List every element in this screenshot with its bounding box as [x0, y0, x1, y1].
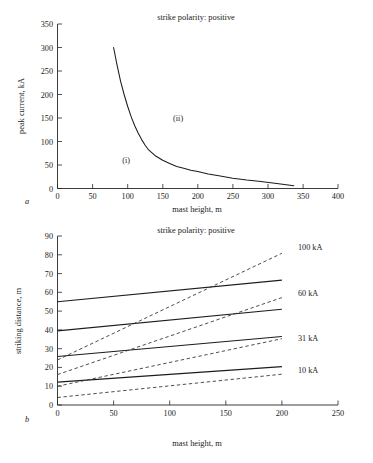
panel-b-letter: b	[25, 415, 29, 424]
panel-b-y-ticks	[58, 236, 63, 405]
x-tick-300: 300	[262, 192, 274, 201]
y-tick-90: 90	[45, 232, 53, 241]
panel-b-series-lines	[58, 253, 282, 397]
panel-b-xlabel: mast height, m	[172, 439, 222, 448]
y-tick-50: 50	[45, 161, 53, 170]
x-tick-100: 100	[122, 192, 134, 201]
series-label-60kA: 60 kA	[298, 289, 318, 298]
y-tick-40: 40	[45, 326, 53, 335]
panel-a-letter: a	[25, 197, 29, 206]
panel-a-ylabel: peak current, kA	[17, 78, 26, 134]
y-tick-350: 350	[41, 20, 53, 29]
panel-b-chart: strike polarity: positive 90 80 70 60 50…	[0, 215, 373, 463]
panel-a-y-tick-labels: 350 300 250 200 150 100 50 0	[41, 20, 53, 194]
y-tick-70: 70	[45, 270, 53, 279]
panel-b-ylabel: striking distance, m	[14, 288, 23, 354]
series-31-ka	[58, 336, 282, 356]
x-tick-250: 250	[332, 409, 344, 418]
y-tick-250: 250	[41, 67, 53, 76]
region-label-i: (i)	[122, 156, 130, 165]
y-tick-50: 50	[45, 307, 53, 316]
y-tick-30: 30	[45, 345, 53, 354]
x-tick-250: 250	[227, 192, 239, 201]
x-tick-150: 150	[220, 409, 232, 418]
x-tick-50: 50	[89, 192, 97, 201]
y-tick-200: 200	[41, 91, 53, 100]
x-tick-150: 150	[157, 192, 169, 201]
x-tick-100: 100	[164, 409, 176, 418]
y-tick-10: 10	[45, 382, 53, 391]
series-label-10kA: 10 kA	[298, 366, 318, 375]
x-tick-0: 0	[55, 192, 59, 201]
series-10-ka-attractive-radius	[58, 374, 282, 397]
series-31-ka-attractive-radius	[58, 339, 282, 387]
y-tick-80: 80	[45, 251, 53, 260]
x-tick-350: 350	[297, 192, 309, 201]
y-tick-100: 100	[41, 138, 53, 147]
y-tick-0: 0	[49, 185, 53, 194]
x-tick-200: 200	[276, 409, 288, 418]
panel-a-x-tick-labels: 0 50 100 150 200 250 300 350 400	[55, 192, 344, 201]
series-60-ka	[58, 309, 282, 331]
panel-a-x-ticks	[58, 184, 339, 189]
series-label-100kA: 100 kA	[298, 243, 322, 252]
panel-a-y-ticks	[58, 24, 63, 189]
panel-b-x-tick-labels: 0 50 100 150 200 250	[55, 409, 344, 418]
series-60-ka-attractive-radius	[58, 298, 282, 375]
x-tick-400: 400	[332, 192, 344, 201]
y-tick-60: 60	[45, 288, 53, 297]
region-label-ii: (ii)	[173, 114, 183, 123]
series-label-31kA: 31 kA	[298, 334, 318, 343]
y-tick-300: 300	[41, 44, 53, 53]
panel-a-title: strike polarity: positive	[157, 13, 235, 22]
panel-b-y-tick-labels: 90 80 70 60 50 40 30 20 10 0	[45, 232, 53, 410]
panel-a-chart: strike polarity: positive 350 300 250 20…	[0, 0, 373, 215]
series-100-ka-attractive-radius	[58, 253, 282, 360]
y-tick-0: 0	[49, 401, 53, 410]
panel-b-x-ticks	[58, 401, 339, 406]
x-tick-50: 50	[110, 409, 118, 418]
series-10-ka	[58, 367, 282, 382]
y-tick-150: 150	[41, 114, 53, 123]
panel-b-title: strike polarity: positive	[157, 226, 235, 235]
x-tick-200: 200	[192, 192, 204, 201]
series-100-ka	[58, 280, 282, 302]
y-tick-20: 20	[45, 363, 53, 372]
figure-container: strike polarity: positive 350 300 250 20…	[0, 0, 373, 463]
critical-current-curve	[114, 48, 294, 186]
panel-a-xlabel: mast height, m	[172, 205, 222, 214]
x-tick-0: 0	[55, 409, 59, 418]
